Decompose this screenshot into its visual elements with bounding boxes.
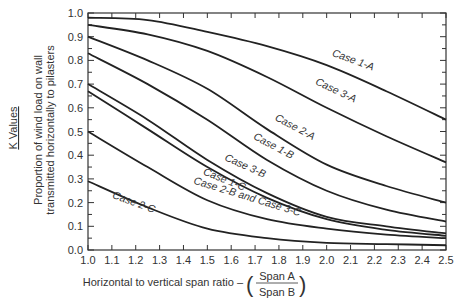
y-tick-label: 1.0 bbox=[68, 7, 83, 19]
y-tick-label: 0.7 bbox=[68, 78, 83, 90]
y-tick-label: 0.0 bbox=[68, 244, 83, 256]
left-paren: ( bbox=[246, 272, 254, 297]
y-tick-label: 0.3 bbox=[68, 173, 83, 185]
x-tick-label: 2.3 bbox=[391, 254, 406, 266]
x-tick-label: 1.9 bbox=[295, 254, 310, 266]
curve-case-2-a bbox=[88, 37, 446, 203]
plot-frame bbox=[88, 13, 446, 250]
y-tick-label: 0.9 bbox=[68, 31, 83, 43]
x-tick-label: 2.0 bbox=[319, 254, 334, 266]
y-axis-primary-title: K Values bbox=[7, 106, 19, 150]
y-tick-label: 0.4 bbox=[68, 149, 83, 161]
y-tick-label: 0.1 bbox=[68, 220, 83, 232]
y-axis-title-line: transmitted horizontally to pilasters bbox=[44, 45, 56, 215]
right-paren: ) bbox=[299, 272, 306, 297]
chart-svg: 1.01.11.21.31.41.51.61.71.81.92.02.12.22… bbox=[0, 0, 467, 307]
x-tick-label: 2.4 bbox=[414, 254, 429, 266]
y-tick-label: 0.2 bbox=[68, 197, 83, 209]
curve-label: Case 3-A bbox=[314, 75, 359, 104]
x-tick-label: 1.1 bbox=[104, 254, 119, 266]
x-tick-label: 1.7 bbox=[247, 254, 262, 266]
fraction-numerator: Span A bbox=[259, 270, 295, 282]
x-tick-label: 1.4 bbox=[176, 254, 191, 266]
y-axis-title-line: Proportion of wind load on wall bbox=[32, 55, 44, 205]
y-tick-label: 0.8 bbox=[68, 54, 83, 66]
x-tick-label: 1.5 bbox=[200, 254, 215, 266]
y-tick-label: 0.5 bbox=[68, 126, 83, 138]
x-tick-label: 2.2 bbox=[367, 254, 382, 266]
curve-label: Case 2-C bbox=[111, 188, 157, 215]
curves bbox=[88, 18, 446, 246]
x-tick-label: 1.3 bbox=[152, 254, 167, 266]
fraction-denominator: Span B bbox=[259, 286, 295, 298]
k-values-chart: 1.01.11.21.31.41.51.61.71.81.92.02.12.22… bbox=[0, 0, 467, 307]
y-tick-label: 0.6 bbox=[68, 102, 83, 114]
x-tick-label: 1.6 bbox=[224, 254, 239, 266]
x-tick-label: 2.5 bbox=[438, 254, 453, 266]
x-tick-label: 1.8 bbox=[271, 254, 286, 266]
x-axis-title: Horizontal to vertical span ratio – bbox=[83, 276, 244, 288]
x-tick-label: 1.2 bbox=[128, 254, 143, 266]
x-tick-label: 2.1 bbox=[343, 254, 358, 266]
